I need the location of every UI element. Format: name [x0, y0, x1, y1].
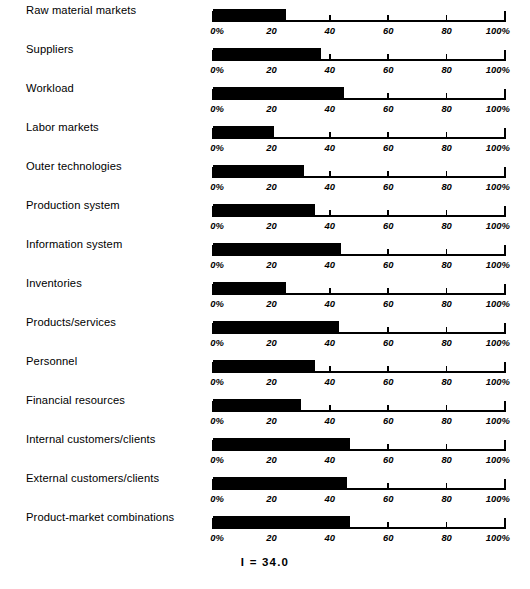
row-plot-area: 0%20406080100% — [213, 468, 505, 507]
axis-tick — [212, 167, 214, 176]
axis-tick-label: 40 — [325, 298, 335, 309]
axis-tick — [387, 288, 389, 293]
axis-tick-label: 60 — [383, 532, 393, 543]
x-axis-line — [212, 332, 506, 334]
row-plot-area: 0%20406080100% — [213, 390, 505, 429]
category-label: Production system — [26, 199, 206, 212]
axis-tick — [329, 132, 331, 137]
axis-tick-label: 60 — [383, 142, 393, 153]
x-axis-line — [212, 20, 506, 22]
value-bar — [213, 87, 344, 99]
axis-tick — [504, 128, 506, 137]
row-plot-area: 0%20406080100% — [213, 117, 505, 156]
axis-tick-label: 60 — [383, 454, 393, 465]
axis-tick-label: 20 — [266, 142, 276, 153]
row-plot-area: 0%20406080100% — [213, 312, 505, 351]
axis-tick-label: 20 — [266, 415, 276, 426]
axis-tick-label: 0% — [210, 142, 224, 153]
x-axis-line — [212, 410, 506, 412]
axis-tick — [329, 366, 331, 371]
value-bar — [213, 243, 341, 255]
x-axis-line — [212, 59, 506, 61]
axis-tick-label: 100% — [486, 220, 510, 231]
axis-tick-label: 0% — [210, 25, 224, 36]
chart-row: Labor markets0%20406080100% — [0, 117, 530, 156]
category-label: Personnel — [26, 355, 206, 368]
axis-tick-label: 20 — [266, 64, 276, 75]
axis-tick — [212, 440, 214, 449]
x-axis-line — [212, 527, 506, 529]
axis-tick-label: 60 — [383, 259, 393, 270]
axis-tick — [504, 518, 506, 527]
axis-tick — [271, 132, 273, 137]
axis-tick-label: 60 — [383, 181, 393, 192]
x-axis-line — [212, 215, 506, 217]
axis-tick — [446, 444, 448, 449]
axis-tick — [329, 210, 331, 215]
axis-tick — [329, 93, 331, 98]
axis-tick — [504, 89, 506, 98]
axis-tick — [212, 89, 214, 98]
axis-tick — [212, 50, 214, 59]
axis-tick — [446, 15, 448, 20]
row-plot-area: 0%20406080100% — [213, 429, 505, 468]
axis-tick-label: 100% — [486, 415, 510, 426]
axis-tick-label: 20 — [266, 25, 276, 36]
axis-tick-label: 0% — [210, 532, 224, 543]
axis-tick — [387, 15, 389, 20]
axis-tick-label: 40 — [325, 103, 335, 114]
axis-tick — [329, 171, 331, 176]
axis-tick — [271, 171, 273, 176]
axis-tick-label: 40 — [325, 415, 335, 426]
axis-tick-label: 20 — [266, 103, 276, 114]
category-label: Labor markets — [26, 121, 206, 134]
axis-tick — [212, 245, 214, 254]
chart-row: Internal customers/clients0%20406080100% — [0, 429, 530, 468]
axis-tick-label: 100% — [486, 103, 510, 114]
axis-tick-label: 80 — [441, 220, 451, 231]
category-label: Products/services — [26, 316, 206, 329]
axis-tick-label: 20 — [266, 220, 276, 231]
axis-tick — [271, 54, 273, 59]
axis-tick — [387, 405, 389, 410]
axis-tick — [271, 366, 273, 371]
axis-tick-label: 20 — [266, 493, 276, 504]
axis-tick — [271, 15, 273, 20]
axis-tick — [446, 132, 448, 137]
axis-tick-label: 100% — [486, 142, 510, 153]
axis-tick-label: 40 — [325, 181, 335, 192]
chart-row: Inventories0%20406080100% — [0, 273, 530, 312]
axis-tick-label: 80 — [441, 532, 451, 543]
axis-tick — [212, 362, 214, 371]
axis-tick — [504, 401, 506, 410]
x-axis-line — [212, 293, 506, 295]
axis-tick-label: 80 — [441, 376, 451, 387]
category-label: Raw material markets — [26, 4, 206, 17]
chart-row: External customers/clients0%20406080100% — [0, 468, 530, 507]
axis-tick-label: 40 — [325, 376, 335, 387]
x-axis-line — [212, 176, 506, 178]
axis-tick — [271, 444, 273, 449]
row-plot-area: 0%20406080100% — [213, 234, 505, 273]
axis-tick-label: 100% — [486, 25, 510, 36]
axis-tick — [387, 366, 389, 371]
axis-tick — [446, 249, 448, 254]
value-bar — [213, 165, 304, 177]
axis-tick-label: 40 — [325, 142, 335, 153]
axis-tick — [446, 522, 448, 527]
axis-tick-label: 60 — [383, 376, 393, 387]
axis-tick — [387, 210, 389, 215]
axis-tick-label: 20 — [266, 376, 276, 387]
axis-tick-label: 100% — [486, 298, 510, 309]
chart-page: Raw material markets0%20406080100%Suppli… — [0, 0, 530, 589]
category-label: External customers/clients — [26, 472, 206, 485]
axis-tick — [329, 54, 331, 59]
axis-tick — [504, 245, 506, 254]
axis-tick-label: 0% — [210, 259, 224, 270]
axis-tick-label: 0% — [210, 298, 224, 309]
x-axis-line — [212, 254, 506, 256]
axis-tick — [212, 479, 214, 488]
axis-tick-label: 100% — [486, 532, 510, 543]
chart-row: Product-market combinations0%20406080100… — [0, 507, 530, 546]
row-plot-area: 0%20406080100% — [213, 273, 505, 312]
